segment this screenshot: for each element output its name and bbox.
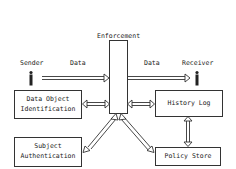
receiver-person-icon bbox=[195, 71, 198, 86]
policy-store-box: Policy Store bbox=[155, 147, 221, 166]
data-out-arrow bbox=[128, 74, 191, 82]
sender-person-icon bbox=[29, 71, 32, 86]
history-log-label: History Log bbox=[167, 99, 210, 109]
enforcement-label: Enforcement bbox=[97, 33, 140, 40]
policy-store-label: Policy Store bbox=[165, 152, 212, 162]
doi-enforcement-arrow bbox=[83, 100, 110, 108]
sa-line1: Subject bbox=[34, 142, 61, 152]
data-in-label: Data bbox=[70, 60, 86, 67]
doi-line2: Identification bbox=[21, 105, 76, 115]
data-out-label: Data bbox=[144, 60, 160, 67]
historylog-policystore-arrow bbox=[184, 117, 192, 147]
data-in-arrow bbox=[42, 74, 109, 82]
historylog-enforcement-arrow bbox=[128, 100, 155, 108]
subject-authentication-box: Subject Authentication bbox=[14, 137, 82, 167]
subjectauth-enforcement-arrow bbox=[83, 114, 118, 153]
enforcement-box bbox=[110, 41, 128, 114]
sender-label: Sender bbox=[20, 60, 43, 67]
policystore-enforcement-arrow bbox=[119, 114, 154, 153]
doi-line1: Data Object bbox=[26, 95, 69, 105]
history-log-box: History Log bbox=[155, 90, 223, 117]
receiver-label: Receiver bbox=[182, 60, 213, 67]
sa-line2: Authentication bbox=[21, 152, 76, 162]
data-object-identification-box: Data Object Identification bbox=[14, 90, 82, 119]
